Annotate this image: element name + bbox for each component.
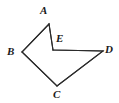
vertex-label-a: A bbox=[40, 5, 47, 16]
edge-C-D bbox=[57, 51, 103, 86]
geometry-figure: A B C D E bbox=[0, 0, 119, 103]
vertex-label-b: B bbox=[7, 46, 14, 57]
edge-B-C bbox=[22, 52, 57, 86]
vertex-label-c: C bbox=[53, 89, 60, 100]
vertex-label-d: D bbox=[105, 44, 113, 55]
vertex-label-e: E bbox=[56, 33, 63, 44]
edge-A-B bbox=[22, 24, 49, 52]
edge-D-E bbox=[53, 50, 103, 51]
edge-E-A bbox=[49, 24, 53, 50]
